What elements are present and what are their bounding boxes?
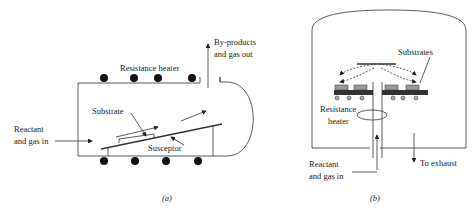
label-substrates-b: Substrates: [398, 47, 433, 57]
label-outlet-a-2: and gas out: [214, 49, 253, 59]
label-inlet-a-1: Reactant: [14, 124, 44, 134]
label-heater-b-2: heater: [328, 116, 349, 126]
label-inlet-b-1: Reactant: [309, 159, 339, 169]
label-exhaust-b: To exhaust: [420, 158, 457, 168]
caption-b: (b): [370, 193, 380, 203]
label-substrate-a: Substrate: [92, 106, 124, 116]
horizontal-reactor: [55, 44, 253, 156]
diagram-drawing: [0, 0, 476, 211]
label-outlet-a-1: By-products: [214, 37, 256, 47]
caption-a: (a): [162, 193, 172, 203]
label-inlet-b-2: and gas in: [309, 171, 343, 181]
label-resistance-heater-a: Resistance heater: [120, 63, 179, 73]
label-inlet-a-2: and gas in: [14, 136, 48, 146]
label-heater-b-1: Resistance: [320, 104, 356, 114]
cvd-reactor-diagram: Resistance heater By-products and gas ou…: [0, 0, 476, 211]
label-susceptor-a: Susceptor: [148, 143, 182, 153]
substrate-holder: [334, 85, 428, 100]
